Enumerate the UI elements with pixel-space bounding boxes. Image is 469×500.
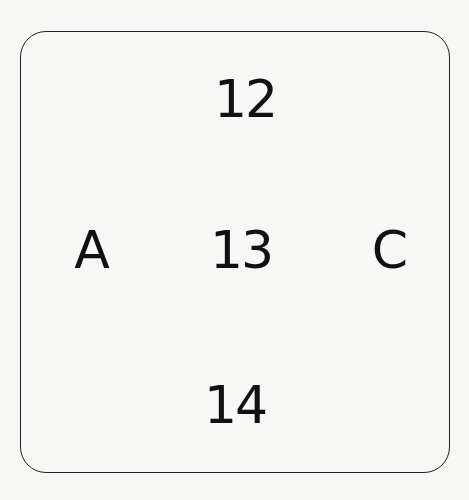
label-center: 13 [210,224,272,276]
label-top: 12 [214,73,276,125]
label-left: A [74,224,108,276]
label-right: C [372,224,406,276]
label-bottom: 14 [204,379,266,431]
